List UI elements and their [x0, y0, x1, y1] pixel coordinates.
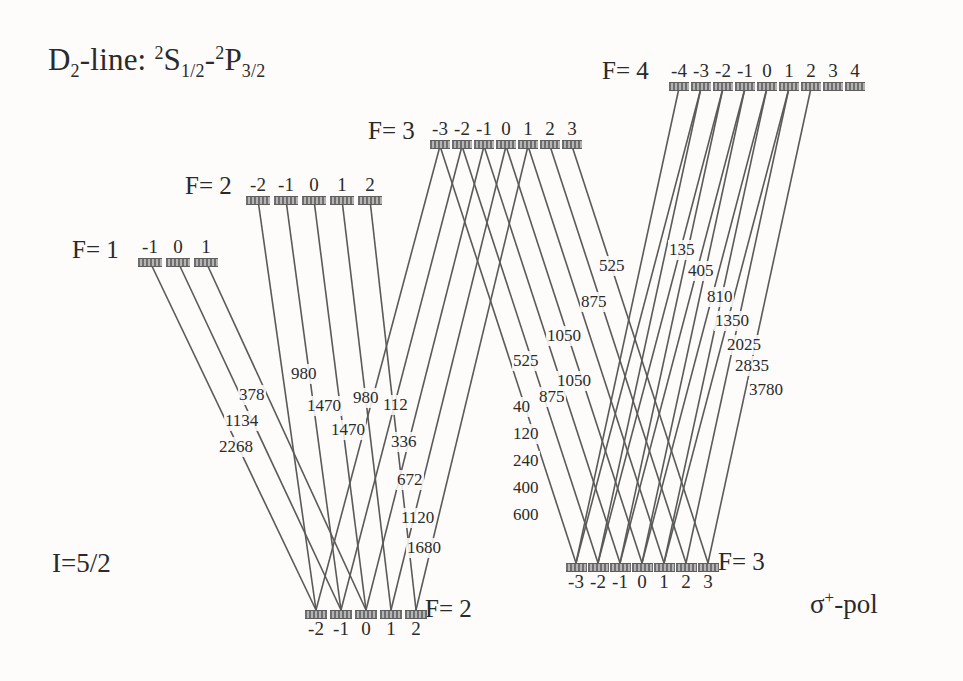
- transition-line: [178, 262, 341, 610]
- m-sublevel-label: 0: [169, 236, 187, 258]
- transition-strength-label: 1470: [330, 420, 366, 440]
- m-sublevel-label: -2: [249, 174, 267, 196]
- transition-strength-label: 40: [512, 397, 531, 417]
- transition-strength-label: 120: [512, 424, 540, 444]
- m-sublevel-label: 2: [677, 571, 695, 593]
- m-sublevel-label: 1: [197, 236, 215, 258]
- term-b-multiplicity: 2: [215, 43, 224, 63]
- sublevel-bar: [691, 82, 711, 91]
- level-label-upper: F= 2: [185, 172, 232, 200]
- transition-strength-label: 378: [238, 385, 266, 405]
- title-subscript-2: 2: [71, 61, 80, 81]
- transition-strength-label: 3780: [748, 380, 784, 400]
- sigma-plus-superscript: +: [825, 588, 835, 607]
- sublevel-bar: [194, 258, 218, 267]
- sublevel-bar: [801, 82, 821, 91]
- transition-strength-label: 1350: [714, 311, 750, 331]
- sublevel-bar: [474, 140, 494, 149]
- transition-lines-layer: [0, 0, 963, 681]
- m-sublevel-label: 0: [357, 618, 375, 640]
- sublevel-bar: [166, 258, 190, 267]
- transition-strength-label: 810: [706, 287, 734, 307]
- sigma-symbol: σ: [810, 589, 825, 619]
- sublevel-bar: [669, 82, 689, 91]
- transition-strength-label: 1120: [400, 508, 435, 528]
- transition-strength-label: 1134: [224, 411, 259, 431]
- m-sublevel-label: -2: [307, 618, 325, 640]
- m-sublevel-label: 0: [497, 118, 515, 140]
- transition-strength-label: 240: [512, 451, 540, 471]
- transition-strength-label: 2025: [726, 335, 762, 355]
- m-sublevel-label: 1: [780, 60, 798, 82]
- m-sublevel-label: -1: [475, 118, 493, 140]
- term-a-symbol: S: [164, 42, 181, 77]
- m-sublevel-label: 0: [633, 571, 651, 593]
- sublevel-bar: [540, 140, 560, 149]
- m-sublevel-label: 0: [758, 60, 776, 82]
- m-sublevel-label: 1: [382, 618, 400, 640]
- m-sublevel-label: 1: [519, 118, 537, 140]
- nuclear-spin-label: I=5/2: [52, 548, 111, 579]
- sublevel-bar: [845, 82, 865, 91]
- transition-strength-label: 525: [598, 256, 626, 276]
- m-sublevel-label: -1: [141, 236, 159, 258]
- sublevel-bar: [562, 140, 582, 149]
- level-label-upper: F= 4: [602, 57, 649, 85]
- m-sublevel-label: 1: [655, 571, 673, 593]
- transition-strength-label: 1470: [306, 396, 342, 416]
- transition-strength-label: 980: [290, 364, 318, 384]
- title-d-letter: D: [48, 42, 71, 77]
- term-b-j: 3/2: [242, 61, 266, 81]
- level-label-lower: F= 3: [718, 548, 765, 576]
- m-sublevel-label: -1: [277, 174, 295, 196]
- level-label-lower: F= 2: [425, 595, 472, 623]
- transition-strength-label: 405: [687, 261, 715, 281]
- sublevel-bar: [430, 140, 450, 149]
- transition-strength-label: 400: [512, 478, 540, 498]
- m-sublevel-label: -2: [714, 60, 732, 82]
- term-a-multiplicity: 2: [154, 43, 163, 63]
- title-line-text: -line:: [80, 42, 155, 77]
- m-sublevel-label: 2: [802, 60, 820, 82]
- transition-strength-label: 672: [396, 470, 424, 490]
- sublevel-bar: [452, 140, 472, 149]
- term-b-symbol: P: [224, 42, 241, 77]
- m-sublevel-label: -3: [692, 60, 710, 82]
- transition-strength-label: 1050: [546, 326, 582, 346]
- m-sublevel-label: -4: [670, 60, 688, 82]
- m-sublevel-label: -1: [736, 60, 754, 82]
- polarization-suffix: -pol: [834, 589, 878, 619]
- transition-line: [484, 146, 620, 563]
- m-sublevel-label: 2: [361, 174, 379, 196]
- level-diagram-figure: D2-line: 2S1/2-2P3/2 I=5/2 σ+-pol F= 1-1…: [0, 0, 963, 681]
- transition-line: [620, 88, 723, 563]
- sublevel-bar: [496, 140, 516, 149]
- sublevel-bar: [358, 196, 382, 205]
- transition-strength-label: 135: [668, 240, 696, 260]
- transition-strength-label: 112: [382, 395, 409, 415]
- transition-strength-label: 525: [512, 351, 540, 371]
- transition-strength-label: 875: [580, 292, 608, 312]
- sublevel-bar: [302, 196, 326, 205]
- sublevel-bar: [779, 82, 799, 91]
- sublevel-bar: [274, 196, 298, 205]
- m-sublevel-label: -3: [567, 571, 585, 593]
- sublevel-bar: [138, 258, 162, 267]
- transition-strength-label: 980: [352, 388, 380, 408]
- transition-strength-label: 2268: [218, 437, 254, 457]
- transition-strength-label: 2835: [734, 356, 770, 376]
- m-sublevel-label: 4: [846, 60, 864, 82]
- sublevel-bar: [246, 196, 270, 205]
- m-sublevel-label: -1: [332, 618, 350, 640]
- m-sublevel-label: -1: [611, 571, 629, 593]
- sublevel-bar: [518, 140, 538, 149]
- transition-strength-label: 1050: [556, 371, 592, 391]
- m-sublevel-label: 2: [407, 618, 425, 640]
- m-sublevel-label: 0: [305, 174, 323, 196]
- title-dash: -: [205, 42, 216, 77]
- transition-line: [341, 146, 462, 610]
- level-label-upper: F= 1: [72, 236, 119, 264]
- m-sublevel-label: 2: [541, 118, 559, 140]
- m-sublevel-label: 1: [333, 174, 351, 196]
- m-sublevel-label: 3: [699, 571, 717, 593]
